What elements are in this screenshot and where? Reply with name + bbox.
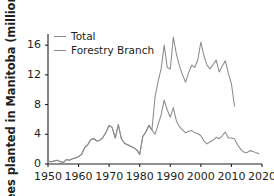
legend-label-total: Total xyxy=(71,30,96,42)
legend-label-forestry-branch: Forestry Branch xyxy=(71,44,154,56)
x-tick-label-1970: 1970 xyxy=(92,170,126,183)
y-tick-label-16: 16 xyxy=(19,38,41,51)
y-tick-label-8: 8 xyxy=(19,98,41,111)
y-tick-label-0: 0 xyxy=(19,157,41,170)
y-tick-label-12: 12 xyxy=(19,68,41,81)
x-tick-label-1960: 1960 xyxy=(62,170,96,183)
x-tick-label-1990: 1990 xyxy=(153,170,187,183)
chart-figure: Trees planted in Manitoba (millions) 048… xyxy=(0,0,274,196)
chart-legend: Total Forestry Branch xyxy=(54,30,154,58)
x-tick-label-1950: 1950 xyxy=(31,170,65,183)
legend-item-forestry-branch: Forestry Branch xyxy=(54,44,154,56)
legend-line-swatch-forestry-branch xyxy=(54,50,66,51)
legend-line-swatch-total xyxy=(54,36,66,37)
x-tick-label-2020: 2020 xyxy=(245,170,274,183)
x-tick-label-1980: 1980 xyxy=(123,170,157,183)
x-tick-label-2010: 2010 xyxy=(214,170,248,183)
legend-item-total: Total xyxy=(54,30,154,42)
x-tick-label-2000: 2000 xyxy=(184,170,218,183)
y-tick-label-4: 4 xyxy=(19,127,41,140)
